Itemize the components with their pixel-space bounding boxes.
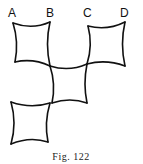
figure-caption: Fig. 122 bbox=[52, 151, 89, 162]
label-d: D bbox=[120, 6, 129, 20]
square-c-d bbox=[87, 22, 125, 66]
square-middle bbox=[50, 64, 87, 103]
square-a-b bbox=[13, 22, 50, 66]
label-c: C bbox=[83, 6, 92, 20]
figure-122-diagram: A B C D Fig. 122 bbox=[0, 0, 143, 164]
label-b: B bbox=[46, 6, 54, 20]
square-bottom bbox=[11, 102, 50, 144]
label-a: A bbox=[8, 6, 16, 20]
